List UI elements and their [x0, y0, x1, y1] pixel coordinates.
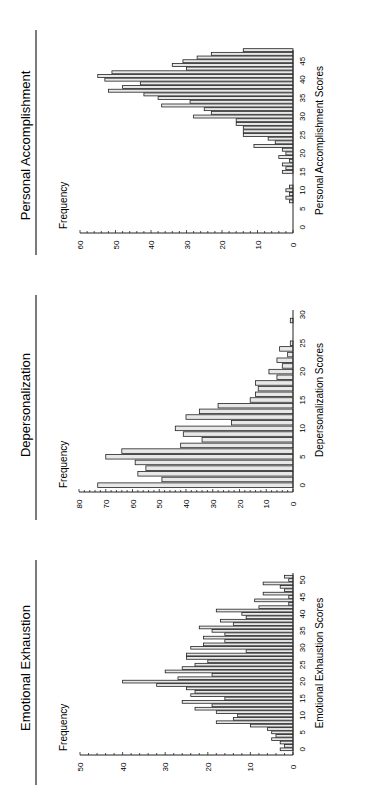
histogram-bar: [165, 670, 293, 673]
score-axis-label: Depersonalization Scores: [314, 343, 325, 457]
histogram-bar: [275, 141, 293, 144]
histogram-bar: [256, 381, 293, 386]
frequency-tick-label: 0: [289, 242, 298, 247]
histogram-bar: [280, 748, 293, 751]
histogram-bar: [254, 145, 293, 148]
frequency-tick-label: 10: [262, 499, 271, 508]
histogram-bar: [284, 589, 293, 592]
frequency-tick-label: 20: [218, 240, 227, 249]
histogram-bar: [182, 701, 293, 704]
histogram-bar: [243, 130, 293, 133]
score-tick-label: 35: [298, 93, 307, 102]
frequency-tick-label: 80: [75, 499, 84, 508]
histogram-bar: [212, 629, 293, 632]
histogram-bar: [197, 56, 293, 59]
histogram-bar: [191, 646, 293, 649]
histogram-bar: [187, 653, 294, 656]
frequency-tick-label: 0: [289, 501, 298, 506]
histogram-bar: [135, 460, 293, 465]
score-tick-label: 20: [298, 367, 307, 376]
histogram-bar: [277, 358, 293, 363]
chart-area: Emotional Exhaustion01020304050Frequency…: [18, 560, 325, 785]
histogram-bar: [183, 60, 293, 63]
histogram-bar: [289, 596, 293, 599]
histogram-bar: [123, 86, 293, 89]
score-tick-label: 15: [298, 395, 307, 404]
chart-title: Emotional Exhaustion: [18, 605, 33, 731]
histogram-bar: [158, 97, 293, 100]
score-tick-label: 45: [298, 592, 307, 601]
histogram-bar: [280, 585, 293, 588]
histogram-bar: [258, 386, 293, 391]
histogram-bar: [199, 626, 293, 629]
histogram-bar: [289, 579, 293, 582]
frequency-tick-label: 20: [236, 499, 245, 508]
score-tick-label: 50: [298, 575, 307, 584]
histogram-bar: [212, 673, 293, 676]
frequency-tick-label: 70: [102, 499, 111, 508]
score-tick-label: 20: [298, 677, 307, 686]
histogram-bar: [282, 148, 293, 151]
histogram-bar: [211, 52, 293, 55]
histogram-bar: [146, 466, 293, 471]
histogram-bar: [242, 613, 293, 616]
frequency-tick-label: 40: [119, 762, 128, 771]
frequency-axis-label: Frequency: [58, 441, 69, 488]
histogram-bar: [263, 582, 293, 585]
histogram-bar: [106, 455, 293, 460]
histogram-bar: [289, 185, 293, 188]
chart-area: Personal Accomplishment0102030405060Freq…: [18, 30, 325, 255]
histogram-bar: [282, 364, 293, 369]
histogram-bar: [284, 745, 293, 748]
score-tick-label: 25: [298, 660, 307, 669]
histogram-bar: [208, 660, 293, 663]
score-tick-label: 10: [298, 423, 307, 432]
histogram-bar: [280, 347, 293, 352]
frequency-tick-label: 40: [147, 240, 156, 249]
score-tick-label: 30: [298, 643, 307, 652]
histogram-bar: [289, 159, 293, 162]
score-tick-label: 45: [298, 56, 307, 65]
histogram-bar: [225, 640, 293, 643]
histogram-bar: [263, 592, 293, 595]
chart-title: Depersonalization: [18, 353, 33, 457]
histogram-bar: [243, 126, 293, 129]
histogram-bar: [98, 483, 293, 488]
histogram-bar: [181, 443, 293, 448]
histogram-bar: [246, 650, 293, 653]
frequency-tick-label: 60: [76, 240, 85, 249]
histogram-bar: [289, 192, 293, 195]
score-axis-label: Emotional Exhaustion Scores: [314, 598, 325, 729]
histogram-bar: [286, 152, 293, 155]
histogram-bar: [267, 728, 293, 731]
chart-title: Personal Accomplishment: [18, 70, 33, 220]
histogram-bar: [225, 697, 293, 700]
frequency-axis-label: Frequency: [58, 704, 69, 751]
frequency-tick-label: 10: [246, 762, 255, 771]
histogram-bar: [195, 707, 293, 710]
score-tick-label: 5: [298, 454, 307, 459]
histogram-bar: [190, 100, 293, 103]
histogram-bar: [162, 477, 293, 482]
histogram-bar: [175, 426, 293, 431]
histogram-bar: [276, 734, 293, 737]
histogram-bar: [202, 437, 293, 442]
frequency-tick-label: 60: [129, 499, 138, 508]
score-tick-label: 10: [298, 185, 307, 194]
score-tick-label: 30: [298, 310, 307, 319]
chart-area: Depersonalization01020304050607080Freque…: [18, 295, 325, 520]
frequency-tick-label: 50: [76, 762, 85, 771]
histogram-bar: [194, 115, 293, 118]
score-tick-label: 35: [298, 626, 307, 635]
score-tick-label: 25: [298, 130, 307, 139]
frequency-tick-label: 20: [204, 762, 213, 771]
histogram-bar: [212, 704, 293, 707]
histogram-bar: [187, 67, 294, 70]
histogram-bar: [187, 687, 294, 690]
histogram-bar: [178, 677, 293, 680]
histogram-bar: [256, 392, 293, 397]
emotional-exhaustion-histogram: Emotional Exhaustion01020304050Frequency…: [0, 530, 365, 801]
frequency-tick-label: 50: [112, 240, 121, 249]
histogram-bar: [204, 643, 293, 646]
histogram-bar: [204, 108, 293, 111]
